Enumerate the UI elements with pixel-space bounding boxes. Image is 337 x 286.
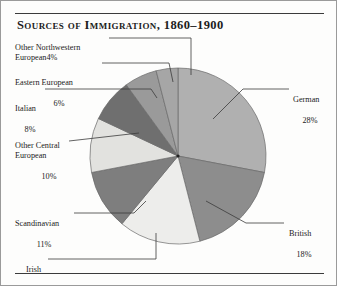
pie-label-scandinavian: Scandinavian 11% — [15, 208, 73, 250]
figure-rule-bottom — [15, 273, 324, 274]
pie-label-italian-name: Italian — [15, 104, 36, 113]
pie-center-dot — [176, 154, 179, 157]
pie-label-british-name: British — [289, 229, 311, 238]
pie-label-other-central-european: Other Central European 10% — [15, 130, 83, 183]
pie-label-other-central-european-name: Other Central European — [15, 141, 60, 161]
pie-label-british: British 18% — [289, 218, 319, 260]
pie-label-scandinavian-pct: 11% — [15, 240, 73, 251]
pie-label-german-name: German — [293, 95, 319, 104]
pie-label-german-pct: 28% — [293, 116, 327, 127]
pie-label-other-northwestern-european: Other Northwestern European4% — [15, 32, 80, 64]
pie-label-eastern-european-name: Eastern European — [15, 78, 73, 87]
pie-label-other-northwestern-european-pct: 4% — [46, 53, 57, 62]
pie-label-other-central-european-pct: 10% — [15, 172, 83, 183]
pie-chart-figure: Sources of Immigration, 1860–1900 Other … — [0, 0, 337, 286]
pie-slices-group — [90, 68, 266, 244]
pie-label-irish: Irish 15% — [26, 254, 48, 286]
pie-label-german: German 28% — [293, 84, 327, 126]
pie-label-british-pct: 18% — [289, 250, 319, 261]
pie-slice-german — [178, 68, 266, 172]
pie-label-italian: Italian 8% — [15, 93, 45, 135]
pie-label-scandinavian-name: Scandinavian — [15, 219, 59, 228]
